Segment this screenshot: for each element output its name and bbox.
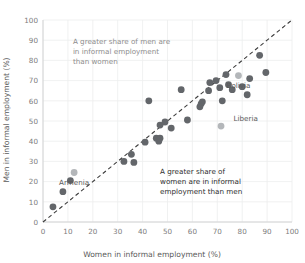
x-tick-label: 20 — [88, 227, 98, 236]
x-tick-label: 60 — [188, 227, 198, 236]
data-point — [199, 98, 206, 105]
y-axis-tick-labels: 0102030405060708090100 — [24, 16, 38, 227]
scatter-chart: ArmeniaLiberiaBolivia 010203040506070809… — [0, 0, 305, 263]
data-point-armenia — [71, 169, 78, 176]
lower-right-note-line: A greater share of — [160, 167, 225, 176]
data-point — [216, 84, 223, 91]
data-point — [205, 87, 212, 94]
y-tick-label: 90 — [29, 36, 39, 45]
upper-left-note-line: A greater share of men are — [73, 37, 171, 46]
data-point-liberia — [218, 123, 225, 130]
data-point — [223, 71, 230, 78]
data-point-bolivia — [235, 72, 242, 79]
y-tick-label: 20 — [29, 177, 39, 186]
data-point — [60, 188, 67, 195]
data-point — [184, 117, 191, 124]
point-label-bolivia: Bolivia — [226, 81, 250, 90]
data-point-labels: ArmeniaLiberiaBolivia — [59, 81, 258, 187]
point-label-armenia: Armenia — [59, 178, 89, 187]
upper-left-note: A greater share of men arein informal em… — [73, 37, 171, 66]
y-tick-label: 30 — [29, 157, 39, 166]
x-tick-label: 0 — [41, 227, 46, 236]
x-tick-label: 70 — [213, 227, 223, 236]
data-point — [206, 79, 213, 86]
x-axis-tick-labels: 0102030405060708090100 — [41, 227, 300, 236]
data-point — [168, 125, 175, 132]
y-tick-label: 70 — [29, 76, 39, 85]
y-tick-label: 100 — [24, 16, 38, 25]
y-tick-label: 0 — [33, 218, 38, 227]
y-tick-label: 80 — [29, 56, 39, 65]
data-point — [219, 97, 226, 104]
data-point — [157, 135, 164, 142]
data-point — [178, 86, 185, 93]
data-point — [162, 119, 169, 126]
x-tick-label: 100 — [285, 227, 299, 236]
data-point — [121, 158, 128, 165]
lower-right-note-line: women are in informal — [160, 177, 241, 186]
data-point — [244, 91, 251, 98]
data-point — [142, 139, 149, 146]
chart-canvas: ArmeniaLiberiaBolivia 010203040506070809… — [0, 0, 305, 263]
data-point — [145, 97, 152, 104]
data-point — [256, 52, 263, 59]
data-point — [128, 151, 135, 158]
data-point — [213, 77, 220, 84]
data-point — [50, 203, 57, 210]
x-tick-label: 10 — [63, 227, 73, 236]
upper-left-note-line: than women — [73, 57, 118, 66]
x-axis-title: Women in informal employment (%) — [83, 250, 221, 259]
x-tick-label: 90 — [263, 227, 273, 236]
x-tick-label: 40 — [138, 227, 148, 236]
y-tick-label: 50 — [29, 117, 39, 126]
upper-left-note-line: in informal employment — [73, 47, 159, 56]
x-tick-label: 50 — [163, 227, 173, 236]
data-point — [262, 69, 269, 76]
lower-right-note: A greater share ofwomen are in informale… — [160, 167, 242, 196]
y-axis-title: Men in informal employment (%) — [2, 57, 11, 182]
data-point — [130, 159, 137, 166]
lower-right-note-line: employment than men — [160, 187, 242, 196]
point-label-liberia: Liberia — [233, 114, 257, 123]
x-tick-label: 30 — [113, 227, 123, 236]
y-tick-label: 40 — [29, 137, 39, 146]
y-tick-label: 60 — [29, 97, 39, 106]
x-tick-label: 80 — [238, 227, 248, 236]
y-tick-label: 10 — [29, 198, 39, 207]
